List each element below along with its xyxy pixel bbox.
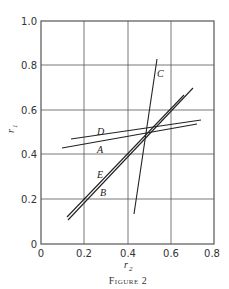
svg-text:0.4: 0.4 bbox=[120, 248, 136, 259]
x-axis-label: r 2 bbox=[124, 259, 133, 273]
line-a bbox=[62, 124, 197, 148]
label-a: A bbox=[96, 144, 104, 155]
svg-text:0.8: 0.8 bbox=[21, 60, 37, 71]
svg-text:0.2: 0.2 bbox=[76, 248, 92, 259]
x-ticks: 0 0.2 0.4 0.6 0.8 bbox=[38, 248, 220, 259]
y-ticks: 1.0 0.8 0.6 0.4 0.2 0 bbox=[21, 16, 37, 250]
label-d: D bbox=[96, 126, 105, 137]
svg-text:0.4: 0.4 bbox=[21, 149, 37, 160]
svg-text:0.6: 0.6 bbox=[163, 248, 179, 259]
svg-text:0.6: 0.6 bbox=[21, 105, 37, 116]
plot-area bbox=[41, 21, 214, 244]
y-axis-label: r 1 bbox=[5, 125, 19, 134]
line-c bbox=[134, 59, 157, 214]
svg-text:r: r bbox=[5, 129, 16, 133]
label-c: C bbox=[157, 68, 164, 79]
svg-text:2: 2 bbox=[129, 265, 133, 273]
line-d bbox=[71, 120, 201, 139]
svg-text:0.2: 0.2 bbox=[21, 194, 37, 205]
svg-text:r: r bbox=[124, 259, 128, 270]
figure-caption: Figure 2 bbox=[109, 275, 147, 286]
label-b: B bbox=[100, 187, 106, 198]
svg-text:1.0: 1.0 bbox=[21, 16, 37, 27]
svg-text:0: 0 bbox=[38, 248, 44, 259]
svg-text:0: 0 bbox=[31, 239, 37, 250]
label-e: E bbox=[96, 169, 103, 180]
chart: C D A E B 1.0 0.8 0.6 0.4 0.2 0 0 0.2 0.… bbox=[0, 0, 229, 289]
svg-text:0.8: 0.8 bbox=[204, 248, 220, 259]
data-lines bbox=[62, 59, 201, 220]
svg-text:1: 1 bbox=[11, 125, 19, 129]
